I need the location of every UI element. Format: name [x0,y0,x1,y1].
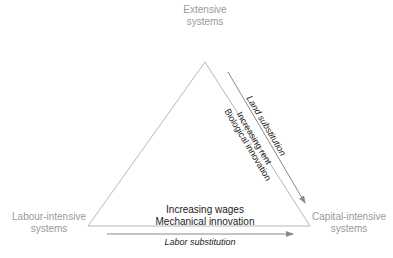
vertex-labour-intensive: Labour-intensive systems [6,211,92,235]
vertex-capital-intensive: Capital-intensive systems [306,211,392,235]
vertex-extensive: Extensive systems [160,4,250,28]
labor-substitution-label: Labor substitution [150,236,250,248]
wages-mechanical-label: Increasing wages Mechanical innovation [140,204,270,228]
